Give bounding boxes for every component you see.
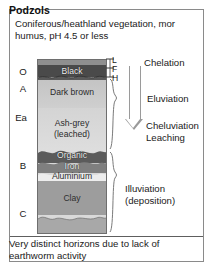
ash-grey-label: Ash-grey: [38, 118, 106, 128]
sidebar-item-horizon-b: B: [14, 160, 32, 171]
soil-profile-column: Black Dark brown Ash-grey (leached) Orga…: [37, 59, 107, 234]
footer-divider: [10, 236, 203, 237]
footer-note: Very distinct horizons due to lack of ea…: [9, 238, 189, 262]
dark-brown-band: Dark brown: [38, 80, 106, 108]
aluminium-label: Aluminium: [38, 171, 106, 181]
organic-label: Organic: [38, 150, 106, 160]
subtitle-description: Coniferous/heathland vegetation, mor hum…: [15, 18, 190, 42]
leaching-label: Leaching: [146, 132, 185, 144]
sidebar-item-horizon-a: A: [14, 83, 32, 94]
sidebar-item-horizon-o: O: [14, 66, 32, 77]
page-title: Podzols: [9, 4, 50, 16]
ash-grey-band: Ash-grey (leached): [38, 108, 106, 152]
sidebar-item-horizon-c: C: [14, 208, 32, 219]
boundary-wave-b-c: [38, 210, 106, 234]
eluviation-label: Eluviation: [147, 93, 189, 105]
eluviation-brace: [108, 79, 118, 151]
dark-brown-label: Dark brown: [38, 87, 106, 97]
ash-grey-leached-label: (leached): [38, 129, 106, 139]
sidebar-item-horizon-ea: Ea: [12, 112, 30, 123]
illuviation-brace: [108, 152, 118, 234]
podzol-soil-profile-diagram: Podzols Coniferous/heathland vegetation,…: [0, 0, 214, 280]
clay-label: Clay: [38, 193, 106, 203]
downward-process-arrow: [129, 66, 141, 120]
cheluviation-label: Cheluviation: [146, 120, 199, 132]
deposition-label: (deposition): [125, 195, 175, 207]
chelation-label: Chelation: [144, 57, 185, 69]
illuviation-label: Illuviation: [125, 183, 165, 195]
